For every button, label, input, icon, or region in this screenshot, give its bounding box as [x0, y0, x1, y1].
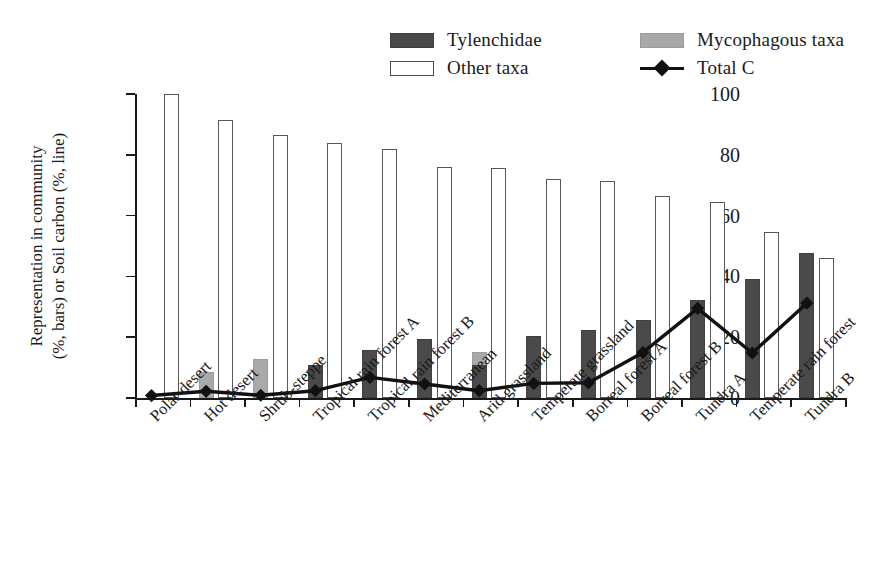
- legend-item-other-taxa: Other taxa: [390, 57, 640, 79]
- legend-row-1: Tylenchidae Mycophagous taxa: [390, 26, 860, 54]
- legend-label-tylenchidae: Tylenchidae: [447, 29, 542, 51]
- legend-label-mycophagous-taxa: Mycophagous taxa: [697, 29, 844, 51]
- y-tick-100: [126, 93, 135, 95]
- white-square-swatch-icon: [390, 61, 434, 76]
- legend-row-2: Other taxa Total C: [390, 54, 860, 82]
- line-diamond-swatch-icon: [640, 61, 684, 76]
- legend-item-mycophagous-taxa: Mycophagous taxa: [640, 29, 844, 51]
- y-tick-80: [126, 154, 135, 156]
- total-c-marker: [309, 384, 322, 397]
- gray-square-swatch-icon: [640, 33, 684, 48]
- total-c-marker: [200, 385, 213, 398]
- y-axis-title: Representation in community (%, bars) or…: [26, 81, 70, 411]
- chart-figure: Tylenchidae Mycophagous taxa Other taxa …: [0, 0, 888, 580]
- y-tick-20: [126, 336, 135, 338]
- legend-label-other-taxa: Other taxa: [447, 57, 529, 79]
- y-axis-title-line2: (%, bars) or Soil carbon (%, line): [48, 81, 70, 411]
- legend-label-total-c: Total C: [697, 57, 755, 79]
- dark-square-swatch-icon: [390, 33, 434, 48]
- y-tick-60: [126, 215, 135, 217]
- chart-legend: Tylenchidae Mycophagous taxa Other taxa …: [390, 26, 860, 82]
- y-tick-40: [126, 276, 135, 278]
- legend-item-tylenchidae: Tylenchidae: [390, 29, 640, 51]
- legend-item-total-c: Total C: [640, 57, 755, 79]
- total-c-marker: [473, 384, 486, 397]
- y-axis-title-line1: Representation in community: [26, 81, 48, 411]
- x-axis-label-group: Polar desertHot desertShrub-steppeTropic…: [0, 398, 888, 580]
